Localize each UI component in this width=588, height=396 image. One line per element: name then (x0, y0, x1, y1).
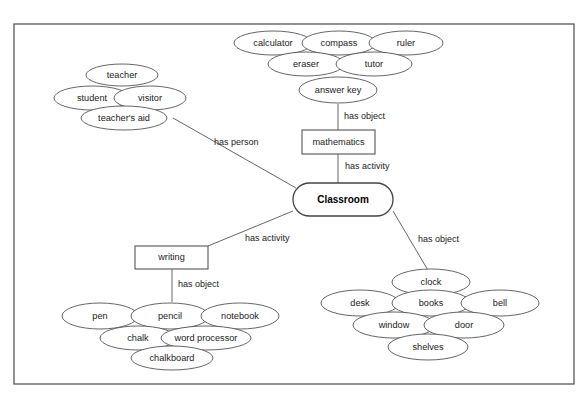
node-visitor-label: visitor (138, 93, 162, 103)
node-word-processor-label: word processor (174, 333, 238, 343)
node-classroom[interactable]: Classroom (293, 183, 393, 216)
node-notebook[interactable]: notebook (201, 303, 279, 329)
node-pencil[interactable]: pencil (131, 303, 209, 329)
node-pen-label: pen (92, 311, 107, 321)
node-shelves-label: shelves (412, 342, 444, 352)
node-mathematics[interactable]: mathematics (302, 130, 375, 154)
node-clock-label: clock (421, 277, 442, 287)
node-teacher-label: teacher (107, 70, 138, 80)
node-chalkboard[interactable]: chalkboard (131, 346, 213, 370)
node-tutor[interactable]: tutor (336, 52, 412, 76)
node-chalkboard-label: chalkboard (150, 353, 195, 363)
node-books-label: books (419, 298, 444, 308)
node-chalk-label: chalk (127, 333, 149, 343)
node-answer-key-label: answer key (315, 85, 362, 95)
node-eraser[interactable]: eraser (268, 52, 344, 76)
node-writing-label: writing (157, 252, 185, 262)
node-window-label: window (378, 320, 410, 330)
diagram-canvas: teacherstudentvisitorteacher's aidcalcul… (0, 0, 588, 396)
edge-has-activity-math-label: has activity (345, 161, 390, 171)
node-eraser-label: eraser (293, 59, 319, 69)
edge-has-activity-writing-label: has activity (245, 233, 290, 243)
node-bell-label: bell (493, 298, 507, 308)
node-ruler[interactable]: ruler (369, 31, 443, 55)
concept-map-svg: teacherstudentvisitorteacher's aidcalcul… (0, 0, 588, 396)
node-pen[interactable]: pen (62, 303, 138, 329)
node-teachers-aid[interactable]: teacher's aid (81, 106, 167, 130)
node-tutor-label: tutor (365, 59, 383, 69)
node-compass[interactable]: compass (302, 31, 376, 55)
edge-has-object-writing-label: has object (178, 279, 220, 289)
node-shelves[interactable]: shelves (388, 334, 468, 360)
node-classroom-label: Classroom (317, 194, 369, 205)
edge-has-object-room-label: has object (418, 234, 460, 244)
node-desk-label: desk (350, 298, 370, 308)
node-teacher[interactable]: teacher (86, 64, 158, 86)
node-pencil-label: pencil (158, 311, 182, 321)
node-calculator-label: calculator (253, 38, 292, 48)
node-teachers-aid-label: teacher's aid (98, 113, 150, 123)
node-ruler-label: ruler (397, 38, 415, 48)
root-node-layer: Classroom (293, 183, 393, 216)
node-mathematics-label: mathematics (312, 137, 364, 147)
edge-has-person-label: has person (214, 137, 259, 147)
node-notebook-label: notebook (221, 311, 259, 321)
node-writing[interactable]: writing (135, 246, 208, 269)
node-door-label: door (455, 320, 473, 330)
node-compass-label: compass (321, 38, 358, 48)
node-answer-key[interactable]: answer key (299, 77, 377, 103)
node-student-label: student (77, 93, 108, 103)
edge-has-object-math-label: has object (344, 111, 386, 121)
node-calculator[interactable]: calculator (234, 31, 312, 55)
